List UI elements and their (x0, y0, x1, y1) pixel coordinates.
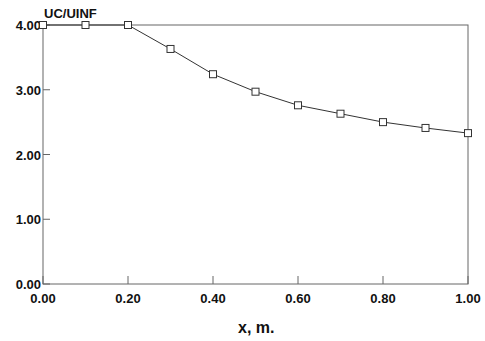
square-marker-icon (337, 110, 344, 117)
square-marker-icon (295, 102, 302, 109)
plot-frame (43, 25, 468, 284)
x-tick-label: 0.20 (115, 291, 140, 306)
y-tick-label: 4.00 (16, 18, 41, 33)
square-marker-icon (40, 22, 47, 29)
data-markers (40, 22, 472, 137)
x-tick-label: 1.00 (455, 291, 480, 306)
square-marker-icon (465, 130, 472, 137)
x-tick-label: 0.60 (285, 291, 310, 306)
axis-ticks (43, 25, 468, 284)
square-marker-icon (252, 88, 259, 95)
x-tick-label: 0.40 (200, 291, 225, 306)
y-tick-label: 1.00 (16, 212, 41, 227)
square-marker-icon (380, 119, 387, 126)
square-marker-icon (422, 124, 429, 131)
square-marker-icon (125, 22, 132, 29)
data-line (43, 25, 468, 133)
y-tick-label: 3.00 (16, 83, 41, 98)
square-marker-icon (210, 71, 217, 78)
y-axis-label: UC/UINF (44, 6, 97, 21)
x-tick-label: 0.00 (30, 291, 55, 306)
y-tick-labels: 0.001.002.003.004.00 (16, 18, 41, 292)
y-tick-label: 0.00 (16, 277, 41, 292)
x-tick-label: 0.80 (370, 291, 395, 306)
square-marker-icon (167, 45, 174, 52)
x-tick-labels: 0.000.200.400.600.801.00 (30, 291, 480, 306)
x-axis-label: x, m. (238, 319, 274, 336)
line-chart: 0.000.200.400.600.801.00 0.001.002.003.0… (0, 0, 485, 341)
square-marker-icon (82, 22, 89, 29)
y-tick-label: 2.00 (16, 148, 41, 163)
